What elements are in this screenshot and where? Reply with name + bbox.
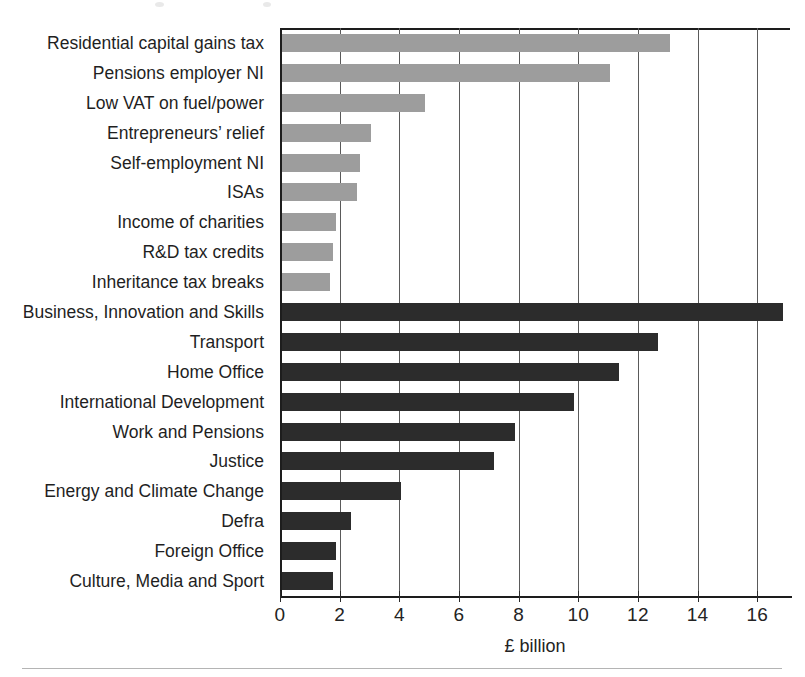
bar: [282, 154, 360, 172]
bar: [282, 393, 574, 411]
x-tick-label: 10: [558, 604, 598, 626]
category-label: Justice: [0, 451, 264, 471]
tick-mark: [638, 591, 639, 602]
scan-artifact: [263, 2, 271, 7]
bar: [282, 94, 425, 112]
category-label: Pensions employer NI: [0, 63, 264, 83]
category-label: Business, Innovation and Skills: [0, 302, 264, 322]
category-label: Low VAT on fuel/power: [0, 93, 264, 113]
x-axis-line: [280, 596, 792, 598]
tick-mark: [340, 591, 341, 602]
category-label: Transport: [0, 332, 264, 352]
category-label: Entrepreneurs’ relief: [0, 123, 264, 143]
plot-area: [280, 28, 790, 596]
category-label: ISAs: [0, 182, 264, 202]
x-tick-label: 14: [678, 604, 718, 626]
category-label: Defra: [0, 511, 264, 531]
x-tick-label: 0: [260, 604, 300, 626]
scan-artifact: [155, 2, 164, 7]
x-axis-title: £ billion: [280, 636, 790, 657]
bar: [282, 542, 336, 560]
x-tick-label: 6: [439, 604, 479, 626]
bar: [282, 183, 357, 201]
category-axis-labels: Residential capital gains taxPensions em…: [0, 28, 272, 596]
category-label: Energy and Climate Change: [0, 481, 264, 501]
x-tick-label: 12: [618, 604, 658, 626]
bar: [282, 482, 401, 500]
tick-mark: [459, 591, 460, 602]
bar: [282, 213, 336, 231]
category-label: Home Office: [0, 362, 264, 382]
tick-mark: [399, 591, 400, 602]
x-tick-label: 8: [499, 604, 539, 626]
bar: [282, 34, 670, 52]
x-tick-label: 16: [737, 604, 777, 626]
footer-divider: [22, 668, 782, 669]
x-tick-label: 2: [320, 604, 360, 626]
x-tick-label: 4: [379, 604, 419, 626]
bar: [282, 64, 610, 82]
tick-mark: [578, 591, 579, 602]
bar: [282, 243, 333, 261]
category-label: Self-employment NI: [0, 153, 264, 173]
bar: [282, 124, 371, 142]
category-label: Work and Pensions: [0, 422, 264, 442]
category-label: Income of charities: [0, 212, 264, 232]
bar: [282, 452, 494, 470]
bar: [282, 423, 515, 441]
plot-top-border: [280, 28, 790, 30]
category-label: Foreign Office: [0, 541, 264, 561]
bar: [282, 572, 333, 590]
bar: [282, 273, 330, 291]
tick-mark: [519, 591, 520, 602]
bar: [282, 333, 658, 351]
bar-chart-figure: Residential capital gains taxPensions em…: [0, 0, 805, 677]
tick-mark: [757, 591, 758, 602]
category-label: Inheritance tax breaks: [0, 272, 264, 292]
category-label: Residential capital gains tax: [0, 33, 264, 53]
bar: [282, 303, 783, 321]
tick-mark: [280, 591, 281, 602]
bar: [282, 512, 351, 530]
category-label: Culture, Media and Sport: [0, 571, 264, 591]
bar: [282, 363, 619, 381]
category-label: R&D tax credits: [0, 242, 264, 262]
tick-mark: [698, 591, 699, 602]
category-label: International Development: [0, 392, 264, 412]
